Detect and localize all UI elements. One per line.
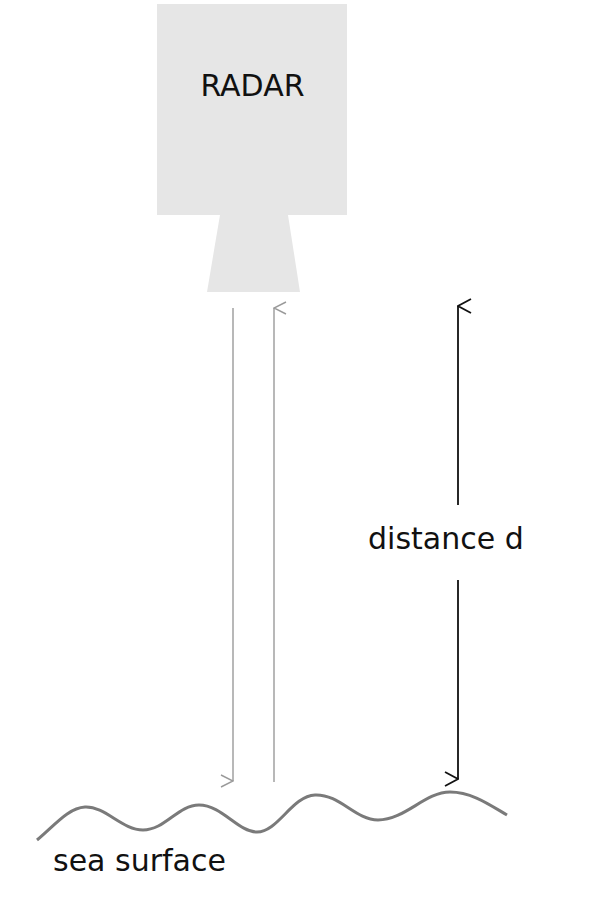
radar-label: RADAR bbox=[158, 68, 347, 103]
radar-body bbox=[157, 4, 347, 215]
sea-surface-wave bbox=[37, 792, 507, 840]
sea-surface-label: sea surface bbox=[53, 843, 226, 878]
diagram-canvas bbox=[0, 0, 600, 911]
radar-horn bbox=[207, 215, 300, 292]
distance-label: distance d bbox=[368, 521, 524, 556]
